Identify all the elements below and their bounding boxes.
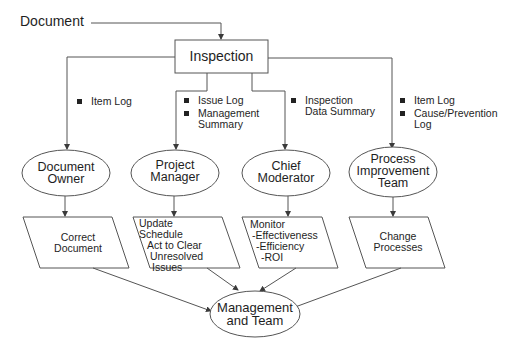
document-input-label: Document bbox=[20, 14, 84, 28]
chief-moderator-label: ChiefModerator bbox=[242, 160, 330, 184]
management-and-team-label: Managementand Team bbox=[211, 301, 299, 327]
document-owner-label: DocumentOwner bbox=[22, 161, 110, 185]
correct-document-action: CorrectDocument bbox=[40, 232, 116, 254]
monitor-to-management-connector bbox=[260, 268, 296, 291]
update-schedule-action: Update Schedule Act to Clear Unresolved … bbox=[139, 218, 203, 273]
update-schedule-to-management-connector bbox=[207, 268, 238, 290]
process-improvement-team-label: ProcessImprovementTeam bbox=[349, 153, 437, 189]
bullet-icon bbox=[184, 111, 189, 116]
inspection-label: Inspection bbox=[175, 49, 268, 63]
correct-document-to-management-connector bbox=[93, 268, 211, 311]
bullet-icon bbox=[400, 98, 405, 103]
document-to-inspection-connector bbox=[91, 23, 221, 39]
bullet-icon bbox=[77, 99, 82, 104]
monitor-action: Monitor -Effectiveness -Efficiency -ROI bbox=[250, 219, 318, 263]
bullet-icon bbox=[291, 98, 296, 103]
bullet-icon bbox=[184, 98, 189, 103]
change-processes-action: ChangeProcesses bbox=[364, 231, 432, 253]
change-processes-to-management-connector bbox=[287, 268, 401, 310]
bullet-icon bbox=[400, 111, 405, 116]
project-manager-label: ProjectManager bbox=[131, 159, 219, 183]
